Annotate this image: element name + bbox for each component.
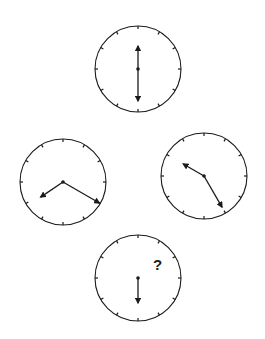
clock-left xyxy=(20,139,106,225)
hour-tick xyxy=(83,145,85,148)
hour-tick xyxy=(239,196,242,198)
hour-tick xyxy=(158,104,160,107)
clock-hand xyxy=(41,182,63,197)
hour-tick xyxy=(101,89,104,91)
hour-tick xyxy=(42,217,44,220)
clock-right xyxy=(161,133,247,219)
hour-tick xyxy=(26,202,29,204)
hour-tick xyxy=(117,313,119,316)
clocks-layer: ? xyxy=(20,26,247,321)
hour-tick xyxy=(83,217,85,220)
hour-tick xyxy=(173,89,176,91)
hour-tick xyxy=(224,139,226,142)
clock-bottom: ? xyxy=(95,235,181,321)
clock-hand xyxy=(204,176,222,207)
hour-tick xyxy=(101,48,104,50)
hour-tick xyxy=(117,104,119,107)
clock-center-pivot xyxy=(136,276,140,280)
hour-tick xyxy=(117,241,119,244)
hour-tick xyxy=(239,155,242,157)
hour-tick xyxy=(101,257,104,259)
hour-tick xyxy=(173,48,176,50)
hour-tick xyxy=(98,161,101,163)
hour-tick xyxy=(173,298,176,300)
hour-tick xyxy=(167,196,170,198)
question-mark: ? xyxy=(153,256,162,273)
hour-tick xyxy=(42,145,44,148)
clock-center-pivot xyxy=(136,67,140,71)
clock-center-pivot xyxy=(202,174,206,178)
hour-tick xyxy=(158,32,160,35)
hour-tick xyxy=(224,211,226,214)
hour-tick xyxy=(173,257,176,259)
clock-center-pivot xyxy=(61,180,65,184)
hour-tick xyxy=(101,298,104,300)
clock-puzzle-diagram: ? xyxy=(0,0,265,339)
hour-tick xyxy=(117,32,119,35)
hour-tick xyxy=(183,211,185,214)
hour-tick xyxy=(26,161,29,163)
hour-tick xyxy=(167,155,170,157)
clock-hand xyxy=(63,182,99,203)
clock-top xyxy=(95,26,181,112)
hour-tick xyxy=(158,313,160,316)
clock-hand xyxy=(183,164,204,176)
hour-tick xyxy=(183,139,185,142)
hour-tick xyxy=(158,241,160,244)
